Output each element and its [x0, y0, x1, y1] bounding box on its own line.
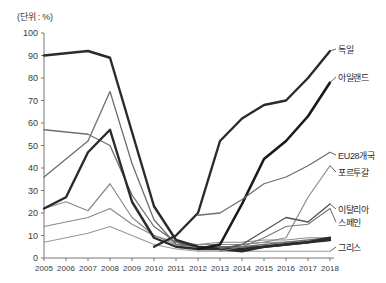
y-axis-tick-label: 70	[28, 96, 38, 106]
series-leader-line	[330, 204, 336, 209]
y-axis-tick-label: 10	[28, 231, 38, 241]
y-axis-tick-label: 100	[23, 28, 38, 38]
series-label-eu28: EU28개국	[338, 151, 375, 161]
x-axis-tick-label: 2014	[233, 264, 251, 273]
series-leader-line	[330, 247, 336, 251]
series-line-독일	[44, 51, 330, 249]
x-axis-tick-label: 2009	[123, 264, 141, 273]
series-leader-line	[330, 166, 336, 172]
series-label-italy: 이탈리아	[338, 205, 369, 215]
series-line-EU28개국	[44, 130, 330, 247]
series-label-germany: 독일	[338, 45, 353, 55]
y-axis-tick-label: 30	[28, 186, 38, 196]
y-axis-tick-label: 20	[28, 208, 38, 218]
x-axis-tick-label: 2016	[277, 264, 295, 273]
series-leader-line	[330, 152, 336, 155]
x-axis-tick-label: 2010	[145, 264, 163, 273]
x-axis-tick-label: 2008	[101, 264, 119, 273]
chart-canvas: 0102030405060708090100200520062007200820…	[0, 0, 386, 283]
series-line-아일랜드-상승	[198, 83, 330, 250]
series-label-spain: 스페인	[338, 218, 361, 228]
x-axis-tick-label: 2018	[321, 264, 339, 273]
y-axis-tick-label: 60	[28, 118, 38, 128]
x-axis-tick-label: 2015	[255, 264, 273, 273]
x-axis-tick-label: 2012	[189, 264, 207, 273]
x-axis-tick-label: 2013	[211, 264, 229, 273]
x-axis-tick-label: 2006	[57, 264, 75, 273]
x-axis-tick-label: 2011	[167, 264, 185, 273]
series-leader-line	[330, 49, 336, 51]
series-line-독일-상승	[154, 51, 330, 247]
y-axis-tick-label: 0	[33, 253, 38, 263]
y-axis-tick-label: 40	[28, 163, 38, 173]
series-label-ireland: 아일랜드	[338, 73, 369, 83]
y-axis-tick-label: 90	[28, 51, 38, 61]
x-axis-tick-label: 2017	[299, 264, 317, 273]
x-axis-tick-label: 2005	[35, 264, 53, 273]
y-axis-tick-label: 80	[28, 73, 38, 83]
y-axis-tick-label: 50	[28, 141, 38, 151]
line-chart: (단위 : %) 0102030405060708090100200520062…	[0, 0, 386, 283]
series-leader-line	[330, 77, 336, 83]
series-label-portugal: 포르투갈	[338, 168, 369, 178]
series-leader-line	[330, 209, 336, 223]
series-label-greece: 그리스	[338, 243, 361, 253]
x-axis-tick-label: 2007	[79, 264, 97, 273]
